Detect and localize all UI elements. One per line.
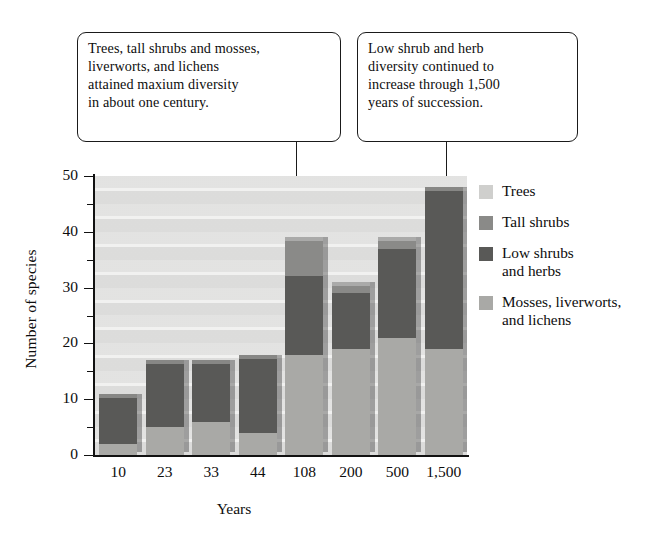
y-axis-major-tick [84, 399, 93, 400]
bar-side-face [323, 237, 328, 452]
x-axis-tick-label: 200 [326, 463, 376, 481]
y-axis-minor-tick [87, 204, 93, 205]
y-axis-major-tick [84, 232, 93, 233]
y-axis-minor-tick [87, 260, 93, 261]
bar-side-face [137, 394, 142, 452]
legend-item[interactable]: Trees [479, 182, 665, 200]
bar-stack [378, 237, 416, 455]
y-axis-major-tick [84, 343, 93, 344]
bar-stack [192, 360, 230, 455]
x-axis-tick-label: 500 [372, 463, 422, 481]
bar-stack [146, 360, 184, 455]
y-axis-line [93, 174, 95, 457]
bar-group[interactable] [285, 237, 323, 455]
bar-segment [192, 422, 230, 455]
bar-segment [285, 237, 323, 276]
callout-box-left: Trees, tall shrubs and mosses, liverwort… [77, 32, 341, 142]
y-axis-tick-label: 40 [48, 222, 78, 240]
y-axis-major-tick [84, 176, 93, 177]
bar-side-face [230, 360, 235, 452]
bar-stack [285, 237, 323, 455]
bar-group[interactable] [425, 187, 463, 455]
y-axis-tick-label: 0 [48, 445, 78, 463]
callout-box-right: Low shrub and herb diversity continued t… [357, 32, 578, 142]
legend-item-label: Low shrubs and herbs [502, 244, 574, 280]
bar-segment [332, 293, 370, 349]
bar-group[interactable] [146, 360, 184, 455]
legend-item[interactable]: Low shrubs and herbs [479, 244, 665, 280]
x-axis-line [93, 455, 469, 457]
bar-segment [146, 427, 184, 455]
bar-stack [239, 355, 277, 455]
y-axis-minor-tick [87, 371, 93, 372]
y-axis-minor-tick [87, 427, 93, 428]
legend-swatch-icon [479, 247, 493, 261]
bar-side-face [184, 360, 189, 452]
bar-segment [285, 355, 323, 455]
bar-segment [99, 444, 137, 455]
bar-side-face [370, 282, 375, 452]
y-axis-title: Number of species [22, 214, 40, 404]
succession-species-chart-figure: Trees, tall shrubs and mosses, liverwort… [0, 0, 668, 539]
bar-segment [192, 360, 230, 421]
bar-group[interactable] [192, 360, 230, 455]
y-axis-tick-label: 30 [48, 278, 78, 296]
bar-segment [146, 360, 184, 427]
y-axis-minor-tick [87, 316, 93, 317]
bar-segment [332, 282, 370, 293]
bar-segment [378, 249, 416, 338]
bar-side-face [416, 237, 421, 452]
bar-segment [239, 355, 277, 433]
bar-segment [332, 349, 370, 455]
bar-side-face [277, 355, 282, 452]
callout-left-text: Trees, tall shrubs and mosses, liverwort… [88, 40, 331, 112]
bar-segment [425, 187, 463, 349]
legend-item-label: Tall shrubs [502, 213, 569, 231]
legend-item[interactable]: Tall shrubs [479, 213, 665, 231]
bar-segment [378, 338, 416, 455]
x-axis-tick-label: 108 [279, 463, 329, 481]
x-axis-tick-label: 10 [93, 463, 143, 481]
x-axis-tick-label: 23 [140, 463, 190, 481]
bar-stack [425, 187, 463, 455]
bar-stack [332, 282, 370, 455]
bar-stack [99, 394, 137, 455]
y-axis-tick-label: 20 [48, 333, 78, 351]
y-axis-major-tick [84, 288, 93, 289]
legend-item-label: Mosses, liverworts, and lichens [502, 293, 621, 329]
bar-segment [239, 433, 277, 455]
x-axis-tick-label: 44 [233, 463, 283, 481]
y-axis-major-tick [84, 455, 93, 456]
bar-group[interactable] [239, 355, 277, 455]
bar-segment [285, 276, 323, 354]
legend-item-label: Trees [502, 182, 535, 200]
bar-segment [378, 237, 416, 248]
legend: TreesTall shrubsLow shrubs and herbsMoss… [479, 182, 665, 342]
plot-area [95, 176, 467, 455]
y-axis-tick-label: 10 [48, 389, 78, 407]
callout-right-text: Low shrub and herb diversity continued t… [368, 40, 568, 112]
bar-group[interactable] [332, 282, 370, 455]
legend-item[interactable]: Mosses, liverworts, and lichens [479, 293, 665, 329]
x-axis-tick-label: 33 [186, 463, 236, 481]
y-axis-tick-label: 50 [48, 166, 78, 184]
bar-group[interactable] [378, 237, 416, 455]
bar-group[interactable] [99, 394, 137, 455]
legend-swatch-icon [479, 216, 493, 230]
x-axis-tick-label: 1,500 [419, 463, 469, 481]
legend-swatch-icon [479, 296, 493, 310]
bar-segment [425, 349, 463, 455]
bar-side-face [463, 187, 467, 452]
x-axis-title: Years [0, 500, 468, 518]
legend-swatch-icon [479, 185, 493, 199]
bar-segment [99, 394, 137, 444]
